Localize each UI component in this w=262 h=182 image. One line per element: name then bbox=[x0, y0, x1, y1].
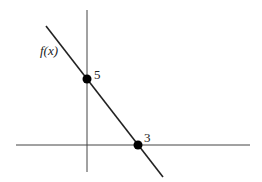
x-intercept-label: 3 bbox=[144, 131, 151, 144]
graph-canvas bbox=[0, 0, 262, 182]
function-line bbox=[46, 26, 163, 177]
function-label: f(x) bbox=[40, 44, 58, 57]
x-intercept-point bbox=[134, 141, 143, 150]
y-intercept-label: 5 bbox=[94, 68, 101, 81]
y-intercept-point bbox=[83, 75, 92, 84]
